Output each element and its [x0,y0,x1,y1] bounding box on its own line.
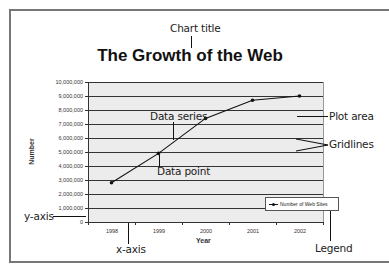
leader-y-axis [53,216,86,217]
data-point-marker [298,94,302,98]
callout-legend: Legend [315,242,352,254]
leader-data-point [159,155,160,167]
callout-y-axis: y-axis [24,210,54,222]
data-point-marker [110,181,114,185]
legend-entry: Number of Web Sites [280,201,327,207]
leader-x-axis [128,223,129,244]
callout-gridlines: Gridlines [329,138,374,150]
callout-data-point: Data point [157,165,210,177]
callout-plot-area: Plot area [329,110,374,122]
callout-data-series: Data series [150,110,207,122]
callout-x-axis: x-axis [116,243,146,255]
leader-data-series [173,122,174,140]
leader-plot-area [297,116,328,117]
data-point-marker [251,98,255,102]
legend-marker-icon [269,204,278,205]
legend: Number of Web Sites [265,197,339,211]
leader-gridlines [296,137,330,155]
leader-legend [330,211,331,241]
